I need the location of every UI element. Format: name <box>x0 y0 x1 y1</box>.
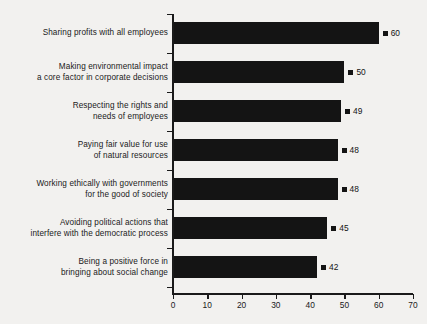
bar <box>173 256 317 278</box>
x-axis-tick-label: 10 <box>203 301 212 309</box>
category-label: Being a positive force inbringing about … <box>3 248 173 287</box>
x-axis-tick <box>344 294 345 299</box>
value-marker-icon <box>345 109 350 114</box>
category-label-line: needs of employees <box>93 112 168 122</box>
x-axis-tick <box>379 294 380 299</box>
x-axis-tick-label: 30 <box>271 301 280 309</box>
value-marker-icon <box>348 70 353 75</box>
y-axis-tick <box>167 53 173 54</box>
category-label: Sharing profits with all employees <box>3 14 173 53</box>
value-marker-icon <box>321 265 326 270</box>
category-label-line: Working ethically with governments <box>36 179 168 189</box>
bar-value-label: 42 <box>329 263 338 271</box>
y-axis-tick <box>167 131 173 132</box>
x-axis-tick <box>276 294 277 299</box>
x-axis-tick <box>173 294 174 299</box>
bar <box>173 100 341 122</box>
chart-row: Sharing profits with all employees60 <box>0 14 427 53</box>
y-axis-tick <box>167 287 173 288</box>
x-axis-tick <box>207 294 208 299</box>
category-label: Working ethically with governmentsfor th… <box>3 170 173 209</box>
bar-area: 45 <box>173 209 427 248</box>
bar-area: 50 <box>173 53 427 92</box>
category-label: Paying fair value for useof natural reso… <box>3 131 173 170</box>
bar <box>173 178 338 200</box>
category-label: Avoiding political actions thatinterfere… <box>3 209 173 248</box>
x-axis-tick <box>310 294 311 299</box>
bar-value-label: 50 <box>356 68 365 76</box>
category-label-line: Being a positive force in <box>79 257 168 267</box>
category-label-line: interfere with the democratic process <box>31 229 169 239</box>
x-axis-tick-label: 0 <box>171 301 176 309</box>
chart-row: Making environmental impacta core factor… <box>0 53 427 92</box>
x-axis-tick <box>413 294 414 299</box>
value-marker-icon <box>331 226 336 231</box>
category-label-line: for the good of society <box>85 190 168 200</box>
category-label-line: a core factor in corporate decisions <box>37 73 168 83</box>
category-label-line: Making environmental impact <box>59 62 168 72</box>
bar <box>173 22 379 44</box>
bar-value-label: 60 <box>391 29 400 37</box>
bar-area: 48 <box>173 131 427 170</box>
chart-row: Respecting the rights andneeds of employ… <box>0 92 427 131</box>
category-label-line: of natural resources <box>94 151 168 161</box>
bar-value-label: 48 <box>350 146 359 154</box>
value-marker-icon <box>342 187 347 192</box>
x-axis-tick-label: 50 <box>340 301 349 309</box>
bar <box>173 217 327 239</box>
chart-row: Working ethically with governmentsfor th… <box>0 170 427 209</box>
x-axis-tick-label: 70 <box>408 301 417 309</box>
category-label-line: Respecting the rights and <box>73 101 168 111</box>
y-axis-line <box>172 14 174 294</box>
x-axis-tick <box>242 294 243 299</box>
x-axis-tick-label: 40 <box>305 301 314 309</box>
y-axis-tick <box>167 92 173 93</box>
y-axis-tick <box>167 170 173 171</box>
horizontal-bar-chart: Sharing profits with all employees60Maki… <box>0 0 427 324</box>
bar <box>173 61 344 83</box>
bar <box>173 139 338 161</box>
category-label-line: Paying fair value for use <box>78 140 168 150</box>
bar-value-label: 45 <box>339 224 348 232</box>
chart-row: Being a positive force inbringing about … <box>0 248 427 287</box>
y-axis-tick <box>167 209 173 210</box>
bar-area: 42 <box>173 248 427 287</box>
x-axis-tick-label: 60 <box>374 301 383 309</box>
chart-row: Paying fair value for useof natural reso… <box>0 131 427 170</box>
chart-row: Avoiding political actions thatinterfere… <box>0 209 427 248</box>
bar-value-label: 48 <box>350 185 359 193</box>
category-label: Respecting the rights andneeds of employ… <box>3 92 173 131</box>
category-label-line: Avoiding political actions that <box>60 218 168 228</box>
y-axis-tick <box>167 14 173 15</box>
category-label-line: Sharing profits with all employees <box>43 28 168 38</box>
x-axis-tick-label: 20 <box>237 301 246 309</box>
value-marker-icon <box>342 148 347 153</box>
bar-value-label: 49 <box>353 107 362 115</box>
bar-area: 60 <box>173 14 427 53</box>
y-axis-tick <box>167 248 173 249</box>
category-label: Making environmental impacta core factor… <box>3 53 173 92</box>
chart-rows: Sharing profits with all employees60Maki… <box>0 14 427 287</box>
bar-area: 48 <box>173 170 427 209</box>
value-marker-icon <box>383 31 388 36</box>
category-label-line: bringing about social change <box>61 268 168 278</box>
bar-area: 49 <box>173 92 427 131</box>
